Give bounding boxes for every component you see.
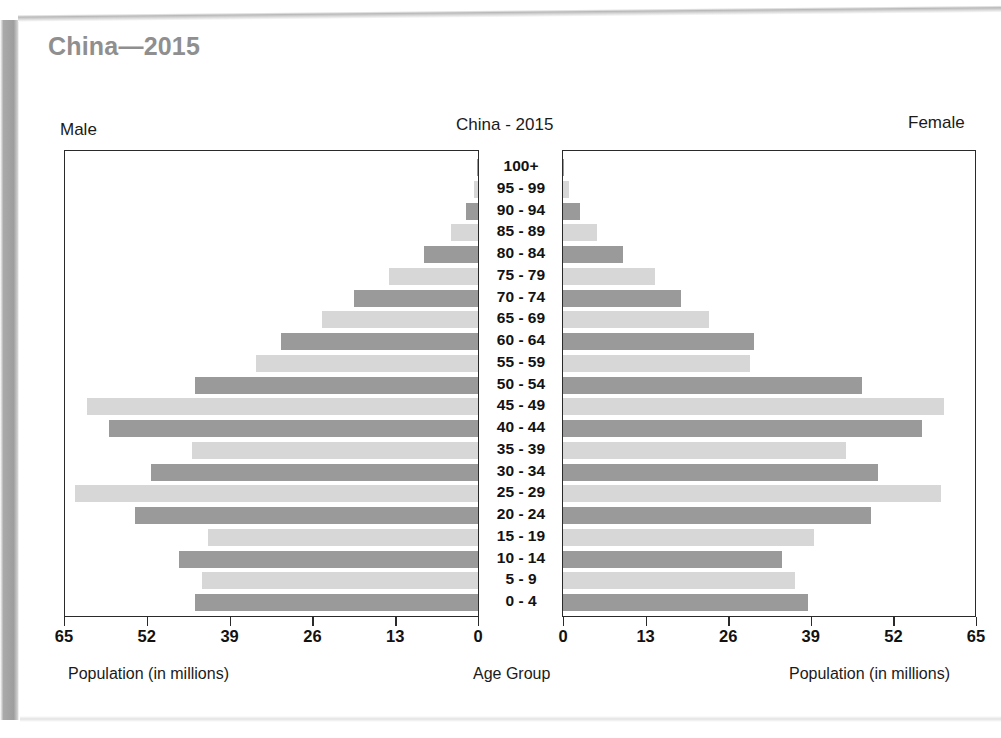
axis-tick-label: 0 bbox=[558, 627, 567, 646]
male-bar bbox=[109, 420, 478, 437]
female-bar bbox=[563, 355, 750, 372]
female-axis-ticks bbox=[0, 617, 1001, 626]
age-group-label: 15 - 19 bbox=[479, 527, 563, 545]
male-bar bbox=[474, 181, 478, 198]
male-plot-area bbox=[64, 150, 479, 617]
age-group-label: 95 - 99 bbox=[479, 179, 563, 197]
male-bar bbox=[466, 203, 478, 220]
male-bar bbox=[389, 268, 478, 285]
age-group-label: 80 - 84 bbox=[479, 244, 563, 262]
female-bar bbox=[563, 181, 569, 198]
axis-tick bbox=[563, 617, 564, 626]
male-bar bbox=[135, 507, 478, 524]
male-bar bbox=[192, 442, 478, 459]
female-bar bbox=[563, 485, 941, 502]
female-axis-title: Population (in millions) bbox=[789, 665, 950, 683]
female-bar bbox=[563, 311, 709, 328]
male-bar bbox=[354, 290, 478, 307]
female-bar bbox=[563, 529, 814, 546]
male-bar bbox=[256, 355, 478, 372]
male-axis-title: Population (in millions) bbox=[68, 665, 229, 683]
male-bars-layer bbox=[65, 151, 478, 616]
female-bar bbox=[563, 333, 754, 350]
male-bar bbox=[151, 464, 478, 481]
female-bar bbox=[563, 398, 944, 415]
female-bar bbox=[563, 594, 808, 611]
age-group-label: 5 - 9 bbox=[479, 570, 563, 588]
male-bar bbox=[202, 572, 478, 589]
female-bar bbox=[563, 551, 782, 568]
female-bar bbox=[563, 377, 862, 394]
female-bars-layer bbox=[563, 151, 975, 616]
age-group-label: 25 - 29 bbox=[479, 483, 563, 501]
age-group-label: 75 - 79 bbox=[479, 266, 563, 284]
male-side-label: Male bbox=[60, 120, 97, 140]
female-axis-tick-labels: 01326395265 bbox=[0, 627, 1001, 651]
female-bar bbox=[563, 268, 655, 285]
male-bar bbox=[75, 485, 478, 502]
age-group-label: 40 - 44 bbox=[479, 418, 563, 436]
age-group-label: 65 - 69 bbox=[479, 309, 563, 327]
male-bar bbox=[322, 311, 478, 328]
age-group-label: 100+ bbox=[479, 157, 563, 175]
population-pyramid-figure: Male Female China - 2015 100+95 - 9990 -… bbox=[0, 0, 1001, 738]
male-bar bbox=[179, 551, 478, 568]
age-group-label: 10 - 14 bbox=[479, 549, 563, 567]
female-bar bbox=[563, 290, 681, 307]
axis-tick bbox=[811, 617, 812, 626]
age-group-label: 70 - 74 bbox=[479, 288, 563, 306]
age-group-labels: 100+95 - 9990 - 9485 - 8980 - 8475 - 797… bbox=[479, 148, 563, 618]
female-bar bbox=[563, 159, 564, 176]
axis-tick-label: 26 bbox=[719, 627, 737, 646]
axis-tick bbox=[893, 617, 894, 626]
female-bar bbox=[563, 203, 580, 220]
age-group-label: 35 - 39 bbox=[479, 440, 563, 458]
axis-tick-label: 65 bbox=[967, 627, 985, 646]
age-group-label: 0 - 4 bbox=[479, 592, 563, 610]
female-bar bbox=[563, 420, 922, 437]
age-group-label: 85 - 89 bbox=[479, 222, 563, 240]
axis-tick-label: 13 bbox=[636, 627, 654, 646]
age-group-label: 55 - 59 bbox=[479, 353, 563, 371]
axis-tick bbox=[728, 617, 729, 626]
male-bar bbox=[477, 159, 478, 176]
chart-title: China - 2015 bbox=[456, 115, 553, 135]
female-bar bbox=[563, 464, 878, 481]
male-bar bbox=[281, 333, 478, 350]
male-bar bbox=[208, 529, 478, 546]
male-bar bbox=[87, 398, 478, 415]
axis-tick-label: 39 bbox=[802, 627, 820, 646]
scanned-page: China—2015 Male Female China - 2015 100+… bbox=[0, 0, 1001, 738]
female-side-label: Female bbox=[908, 113, 965, 133]
female-bar bbox=[563, 507, 871, 524]
axis-tick bbox=[976, 617, 977, 626]
axis-tick bbox=[646, 617, 647, 626]
age-group-label: 30 - 34 bbox=[479, 462, 563, 480]
female-bar bbox=[563, 224, 597, 241]
age-group-label: 60 - 64 bbox=[479, 331, 563, 349]
age-group-label: 45 - 49 bbox=[479, 396, 563, 414]
female-bar bbox=[563, 572, 795, 589]
female-bar bbox=[563, 442, 846, 459]
axis-tick-label: 52 bbox=[884, 627, 902, 646]
age-group-label: 20 - 24 bbox=[479, 505, 563, 523]
age-group-label: 50 - 54 bbox=[479, 375, 563, 393]
female-plot-area bbox=[562, 150, 976, 617]
male-bar bbox=[195, 377, 478, 394]
male-bar bbox=[424, 246, 478, 263]
female-bar bbox=[563, 246, 623, 263]
age-group-label: 90 - 94 bbox=[479, 201, 563, 219]
center-axis-title: Age Group bbox=[473, 665, 550, 683]
male-bar bbox=[195, 594, 478, 611]
male-bar bbox=[451, 224, 478, 241]
